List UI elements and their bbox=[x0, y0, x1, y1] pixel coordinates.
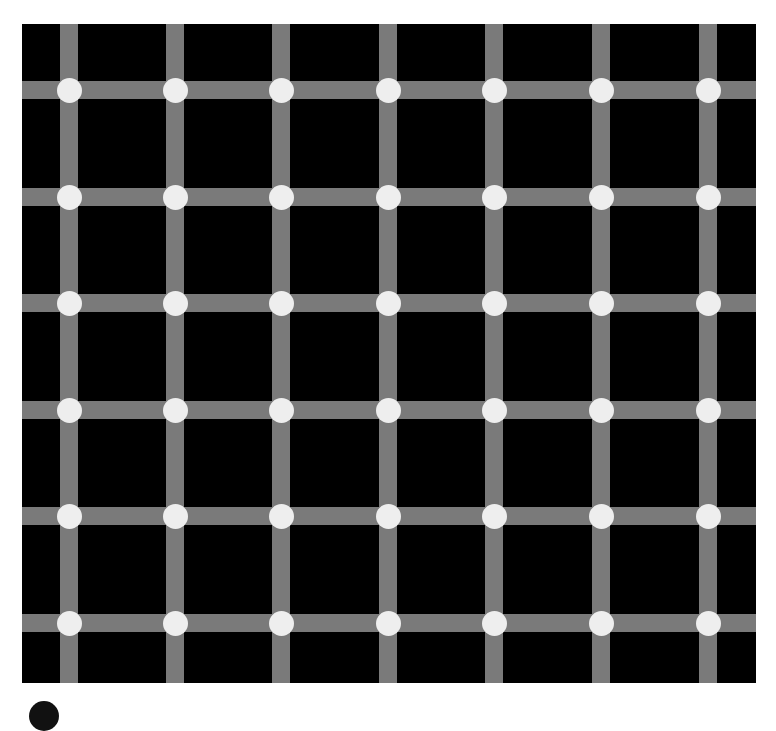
intersection-dot bbox=[696, 78, 721, 103]
intersection-dot bbox=[482, 291, 507, 316]
intersection-dot bbox=[57, 611, 82, 636]
grid-vertical-bar bbox=[379, 24, 397, 683]
intersection-dot bbox=[57, 185, 82, 210]
grid-vertical-bar bbox=[592, 24, 610, 683]
grid-vertical-bar bbox=[272, 24, 290, 683]
intersection-dot bbox=[482, 611, 507, 636]
intersection-dot bbox=[269, 78, 294, 103]
intersection-dot bbox=[482, 185, 507, 210]
intersection-dot bbox=[57, 398, 82, 423]
intersection-dot bbox=[376, 611, 401, 636]
grid-vertical-bar bbox=[166, 24, 184, 683]
intersection-dot bbox=[589, 185, 614, 210]
intersection-dot bbox=[589, 504, 614, 529]
intersection-dot bbox=[269, 185, 294, 210]
intersection-dot bbox=[696, 398, 721, 423]
intersection-dot bbox=[589, 291, 614, 316]
intersection-dot bbox=[376, 78, 401, 103]
intersection-dot bbox=[482, 504, 507, 529]
intersection-dot bbox=[376, 398, 401, 423]
intersection-dot bbox=[269, 291, 294, 316]
intersection-dot bbox=[57, 78, 82, 103]
intersection-dot bbox=[163, 398, 188, 423]
intersection-dot bbox=[269, 504, 294, 529]
intersection-dot bbox=[163, 504, 188, 529]
grid-vertical-bar bbox=[60, 24, 78, 683]
intersection-dot bbox=[163, 291, 188, 316]
intersection-dot bbox=[57, 504, 82, 529]
intersection-dot bbox=[482, 398, 507, 423]
intersection-dot bbox=[589, 78, 614, 103]
grid-vertical-bar bbox=[485, 24, 503, 683]
intersection-dot bbox=[163, 78, 188, 103]
intersection-dot bbox=[696, 291, 721, 316]
intersection-dot bbox=[696, 185, 721, 210]
intersection-dot bbox=[589, 611, 614, 636]
intersection-dot bbox=[589, 398, 614, 423]
intersection-dot bbox=[269, 611, 294, 636]
intersection-dot bbox=[163, 611, 188, 636]
intersection-dot bbox=[57, 291, 82, 316]
intersection-dot bbox=[376, 504, 401, 529]
intersection-dot bbox=[696, 504, 721, 529]
cropped-circle-decoration bbox=[29, 701, 59, 731]
intersection-dot bbox=[482, 78, 507, 103]
grid-panel bbox=[22, 24, 756, 683]
intersection-dot bbox=[376, 291, 401, 316]
intersection-dot bbox=[376, 185, 401, 210]
grid-vertical-bar bbox=[699, 24, 717, 683]
intersection-dot bbox=[269, 398, 294, 423]
intersection-dot bbox=[163, 185, 188, 210]
intersection-dot bbox=[696, 611, 721, 636]
